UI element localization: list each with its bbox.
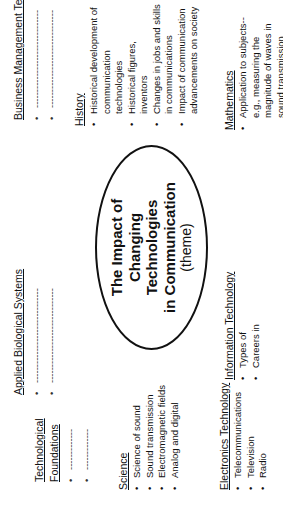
technological-foundations-list: ------------- ------------- bbox=[65, 402, 93, 482]
list-item: Types of bbox=[237, 250, 250, 380]
list-item: ------------------------------ bbox=[46, 255, 59, 395]
list-item: Sound transmission bbox=[144, 380, 157, 490]
web-diagram-page: Technological Foundations ------------- … bbox=[0, 0, 283, 506]
list-item: Impact of communication advancements on … bbox=[176, 0, 201, 126]
list-item: ------------------------------ bbox=[31, 255, 44, 395]
list-item: Science of sound bbox=[131, 380, 144, 490]
information-technology-heading: Information Technology bbox=[223, 250, 236, 380]
list-item: Careers in bbox=[250, 250, 263, 380]
information-technology-list: Types of Careers in bbox=[237, 250, 262, 380]
theme-title-line: Technologies bbox=[143, 200, 161, 296]
science-section: Science Science of sound Sound transmiss… bbox=[117, 380, 181, 490]
electronics-technology-section: Electronics Technology Telecommunication… bbox=[218, 370, 270, 490]
list-item: ------------- bbox=[81, 402, 94, 482]
list-item: Television bbox=[245, 370, 258, 490]
mathematics-heading: Mathematics bbox=[223, 15, 236, 130]
list-item: Radio bbox=[257, 370, 270, 490]
theme-ellipse: The Impact of Changing Technologies in C… bbox=[95, 145, 208, 350]
history-list: Historical development of communication … bbox=[88, 0, 201, 126]
business-management-technology-section: Business Management Technology ---------… bbox=[12, 0, 58, 120]
list-item: ------------------------------- bbox=[31, 0, 44, 120]
mathematics-section: Mathematics Application to subjects-- e.… bbox=[223, 15, 283, 130]
information-technology-section: Information Technology Types of Careers … bbox=[223, 250, 262, 380]
list-item: ------------------------------- bbox=[46, 0, 59, 120]
list-item: Application to subjects-- e.g., measurin… bbox=[237, 15, 283, 130]
list-item: Historical development of communication … bbox=[88, 0, 126, 126]
list-item: Telecommunications bbox=[232, 370, 245, 490]
business-management-technology-heading: Business Management Technology bbox=[12, 0, 25, 120]
theme-title-line: Changing bbox=[126, 213, 144, 282]
electronics-technology-list: Telecommunications Television Radio bbox=[232, 370, 270, 490]
history-section: History Historical development of commun… bbox=[73, 0, 201, 126]
list-item: Electromagnetic fields bbox=[156, 380, 169, 490]
theme-title-line: in Communication bbox=[161, 182, 179, 313]
technological-foundations-section: Technological Foundations ------------- … bbox=[33, 402, 93, 482]
list-item: ------------- bbox=[65, 402, 78, 482]
electronics-technology-heading: Electronics Technology bbox=[218, 370, 231, 490]
mathematics-list: Application to subjects-- e.g., measurin… bbox=[237, 15, 283, 130]
list-item: Analog and digital bbox=[169, 380, 182, 490]
history-heading: History bbox=[73, 0, 86, 126]
theme-title-line: The Impact of bbox=[108, 199, 126, 297]
applied-biological-systems-section: Applied Biological Systems -------------… bbox=[12, 255, 58, 395]
applied-biological-systems-list: ------------------------------ ---------… bbox=[31, 255, 58, 395]
list-item: Changes in jobs and skills in communicat… bbox=[151, 0, 176, 126]
science-heading: Science bbox=[117, 380, 130, 490]
technological-foundations-heading: Technological Foundations bbox=[33, 402, 61, 482]
list-item: Historical figures, inventors bbox=[126, 0, 151, 126]
science-list: Science of sound Sound transmission Elec… bbox=[131, 380, 181, 490]
applied-biological-systems-heading: Applied Biological Systems bbox=[12, 255, 25, 395]
business-management-technology-list: ------------------------------- --------… bbox=[31, 0, 58, 120]
theme-subtitle: (theme) bbox=[178, 223, 195, 271]
